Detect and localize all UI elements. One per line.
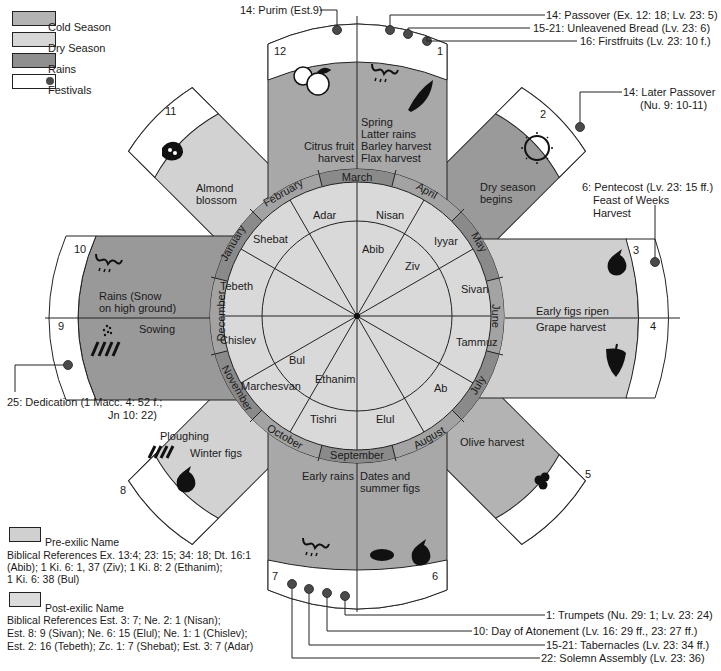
month-number-7: 7 bbox=[272, 570, 278, 582]
post-exilic-ref-line: Est. 2: 16 (Tebeth); Zc. 1: 7 (Shebat); … bbox=[7, 640, 253, 653]
season-m12: Citrus fruitharvest bbox=[294, 140, 354, 164]
festival-later-passover: 14: Later Passover bbox=[623, 86, 715, 98]
season-m7: Early rains bbox=[302, 470, 354, 482]
hebrew-month-tishri: Tishri bbox=[310, 413, 336, 425]
hebrew-month-nisan: Nisan bbox=[376, 209, 404, 221]
month-number-10: 10 bbox=[74, 243, 86, 255]
festival-pentecost: 6: Pentecost (Lv. 23: 15 ff.) bbox=[582, 181, 713, 193]
festival-passover: 14: Passover (Ex. 12: 18; Lv. 23: 5) bbox=[546, 9, 718, 21]
festival-pentecost-harvest: Harvest bbox=[593, 207, 631, 219]
hebrew-month-disc bbox=[223, 182, 491, 450]
month-number-3: 3 bbox=[633, 244, 639, 256]
legend-label-dry: Dry Season bbox=[48, 42, 105, 54]
legend-label-festivals: Festivals bbox=[48, 84, 91, 96]
month-number-5: 5 bbox=[585, 468, 591, 480]
month-number-1: 1 bbox=[437, 45, 443, 57]
festival-unleavened-bread: 15-21: Unleavened Bread (Lv. 23: 6) bbox=[533, 22, 710, 34]
season-m11: Almondblossom bbox=[196, 182, 237, 206]
season-m2: Dry seasonbegins bbox=[480, 181, 536, 205]
pre-exilic-label: Pre-exilic Name bbox=[45, 536, 119, 549]
season-m5: Olive harvest bbox=[460, 436, 524, 448]
hebrew-month-tebeth: Tebeth bbox=[220, 280, 253, 292]
season-m9: Sowing bbox=[139, 323, 175, 335]
festival-dedication: 25: Dedication (1 Macc. 4: 52 f.; bbox=[7, 396, 162, 408]
month-number-12: 12 bbox=[274, 45, 286, 57]
season-m3: Early figs ripen bbox=[536, 305, 609, 317]
pre-exilic-month-abib: Abib bbox=[362, 243, 384, 255]
hebrew-month-iyyar: Iyyar bbox=[434, 235, 458, 247]
season-m1: SpringLatter rains Barley harvestFlax ha… bbox=[361, 116, 431, 164]
post-exilic-label: Post-exilic Name bbox=[45, 602, 124, 615]
festival-solemn-assembly: 22: Solemn Assembly (Lv. 23: 36) bbox=[541, 652, 705, 664]
hebrew-month-marchesvan: Marchesvan bbox=[241, 380, 301, 392]
month-number-6: 6 bbox=[432, 570, 438, 582]
festival-later-passover-ref: (Nu. 9: 10-11) bbox=[640, 99, 707, 111]
pre-exilic-ref-line: (Abib); 1 Ki. 6: 1, 37 (Ziv); 1 Ki. 8: 2… bbox=[7, 561, 222, 574]
legend-label-cold: Cold Season bbox=[48, 21, 111, 33]
month-number-8: 8 bbox=[120, 484, 126, 496]
pre-exilic-ref-line: 1 Ki. 6: 38 (Bul) bbox=[7, 573, 79, 586]
pre-exilic-ref-line: Biblical References Ex. 13:4; 23: 15; 34… bbox=[7, 549, 251, 562]
post-exilic-swatch bbox=[9, 592, 41, 607]
hebrew-month-ab: Ab bbox=[434, 382, 447, 394]
post-exilic-ref-line: Biblical References Est. 3: 7; Ne. 2: 1 … bbox=[7, 614, 221, 627]
festival-purim: 14: Purim (Est.9) bbox=[240, 4, 323, 16]
festival-day-of-atonement: 10: Day of Atonement (Lv. 16: 29 ff., 23… bbox=[473, 625, 697, 637]
season-m10: Rains (Snowon high ground) bbox=[99, 290, 176, 314]
hebrew-month-sivan: Sivan bbox=[461, 283, 489, 295]
month-number-9: 9 bbox=[58, 320, 64, 332]
hebrew-month-adar: Adar bbox=[313, 209, 336, 221]
season-m8-winter-figs: Winter figs bbox=[190, 447, 242, 459]
month-number-4: 4 bbox=[650, 320, 656, 332]
gregorian-month-september: September bbox=[330, 449, 384, 461]
festival-trumpets: 1: Trumpets (Nu. 29: 1; Lv. 23: 24) bbox=[546, 609, 713, 621]
pre-exilic-swatch bbox=[9, 527, 41, 542]
pre-exilic-month-ethanim: Ethanim bbox=[315, 373, 355, 385]
festival-firstfruits: 16: Firstfruits (Lv. 23: 10 f.) bbox=[580, 35, 711, 47]
gregorian-month-march: March bbox=[342, 171, 373, 183]
hebrew-month-shebat: Shebat bbox=[253, 233, 288, 245]
hebrew-month-chislev: Chislev bbox=[220, 334, 256, 346]
hebrew-month-elul: Elul bbox=[376, 413, 394, 425]
month-number-11: 11 bbox=[165, 105, 176, 117]
season-m8-ploughing: Ploughing bbox=[160, 430, 209, 442]
gregorian-month-june: June bbox=[490, 304, 502, 328]
month-number-2: 2 bbox=[540, 108, 546, 120]
festival-tabernacles: 15-21: Tabernacles (Lv. 23: 34 ff.) bbox=[546, 639, 709, 651]
hebrew-month-tammuz: Tammuz bbox=[456, 336, 498, 348]
festival-dedication-ref: Jn 10: 22) bbox=[108, 409, 157, 421]
season-m4: Grape harvest bbox=[536, 321, 606, 333]
pre-exilic-month-bul: Bul bbox=[289, 354, 305, 366]
post-exilic-ref-line: Est. 8: 9 (Sivan); Ne. 6: 15 (Elul); Ne.… bbox=[7, 627, 247, 640]
season-m6: Dates andsummer figs bbox=[360, 470, 420, 494]
festival-pentecost-feast: Feast of Weeks bbox=[593, 194, 669, 206]
dates-icon bbox=[370, 549, 394, 561]
pre-exilic-month-ziv: Ziv bbox=[405, 260, 420, 272]
